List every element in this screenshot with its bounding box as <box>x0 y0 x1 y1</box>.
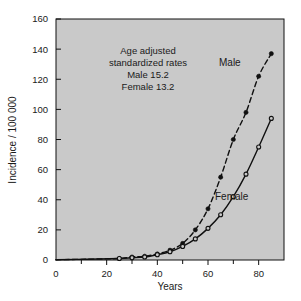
y-tick-label: 60 <box>37 164 48 175</box>
data-point-female <box>130 256 134 260</box>
y-tick-label: 0 <box>43 254 48 265</box>
series-label-male: Male <box>219 57 241 68</box>
data-point-female <box>117 256 121 260</box>
annotation-line-2: standardized rates <box>109 57 187 68</box>
data-point-female <box>143 255 147 259</box>
data-point-female <box>155 253 159 257</box>
data-point-female <box>181 244 185 248</box>
y-tick-label: 160 <box>32 13 48 24</box>
y-tick-label: 40 <box>37 194 48 205</box>
annotation-line-3: Male 15.2 <box>127 69 169 80</box>
chart-canvas: 020406080100120140160 020406080 Incidenc… <box>0 0 301 301</box>
x-tick-label: 0 <box>53 268 58 279</box>
incidence-chart-figure: 020406080100120140160 020406080 Incidenc… <box>0 0 301 301</box>
x-axis: 020406080 <box>53 260 264 279</box>
data-point-female <box>193 237 197 241</box>
annotation-line-4: Female 13.2 <box>122 81 175 92</box>
x-axis-title: Years <box>157 281 182 292</box>
x-tick-label: 80 <box>253 268 264 279</box>
data-point-male <box>257 74 261 78</box>
data-point-female <box>257 145 261 149</box>
series-label-female: Female <box>215 191 249 202</box>
data-point-female <box>168 250 172 254</box>
y-tick-label: 20 <box>37 224 48 235</box>
data-point-female <box>269 116 273 120</box>
annotation-line-1: Age adjusted <box>120 45 175 56</box>
y-axis-title: Incidence / 100 000 <box>7 96 18 184</box>
data-point-male <box>244 110 248 114</box>
data-point-female <box>244 172 248 176</box>
data-point-male <box>206 207 210 211</box>
x-tick-label: 60 <box>203 268 214 279</box>
data-point-male <box>269 52 273 56</box>
data-point-male <box>219 175 223 179</box>
y-tick-label: 140 <box>32 44 48 55</box>
data-point-female <box>206 226 210 230</box>
x-tick-label: 40 <box>152 268 163 279</box>
x-tick-label: 20 <box>101 268 112 279</box>
y-tick-label: 100 <box>32 104 48 115</box>
y-tick-label: 120 <box>32 74 48 85</box>
y-tick-label: 80 <box>37 134 48 145</box>
data-point-male <box>231 137 235 141</box>
data-point-female <box>219 213 223 217</box>
data-point-male <box>193 228 197 232</box>
